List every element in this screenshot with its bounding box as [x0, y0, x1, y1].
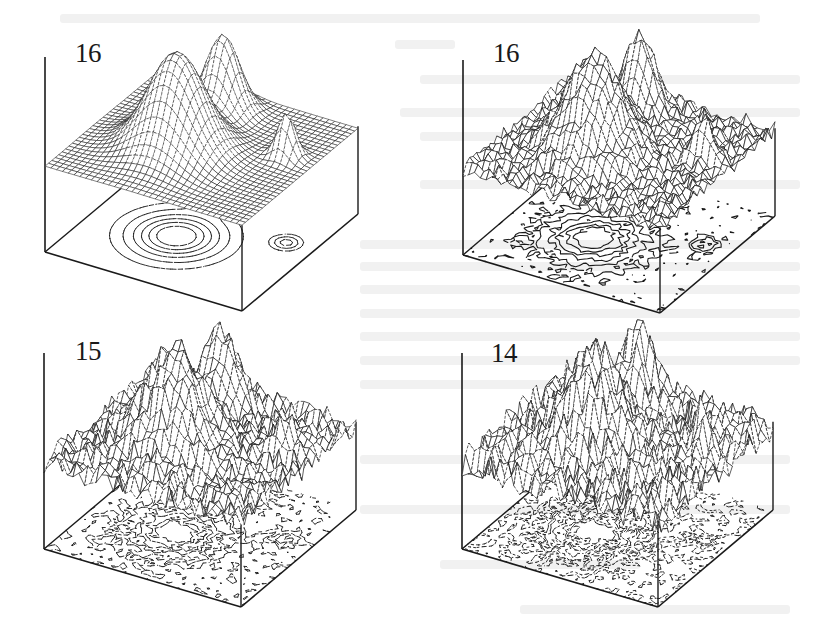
panel-label: 16 — [75, 40, 101, 67]
surface-plot-graphic — [418, 296, 816, 596]
surface-plot-top-left: 16 — [0, 0, 408, 300]
panel-label: 16 — [493, 40, 519, 67]
surface-plot-graphic — [418, 0, 816, 300]
panel-label: 15 — [75, 338, 101, 365]
panel-label: 14 — [491, 340, 517, 367]
surface-plot-bottom-right: 14 — [418, 296, 816, 596]
surface-plot-graphic — [0, 0, 408, 300]
surface-plot-bottom-left: 15 — [0, 296, 408, 596]
surface-plot-top-right: 16 — [418, 0, 816, 300]
surface-plot-graphic — [0, 296, 408, 596]
